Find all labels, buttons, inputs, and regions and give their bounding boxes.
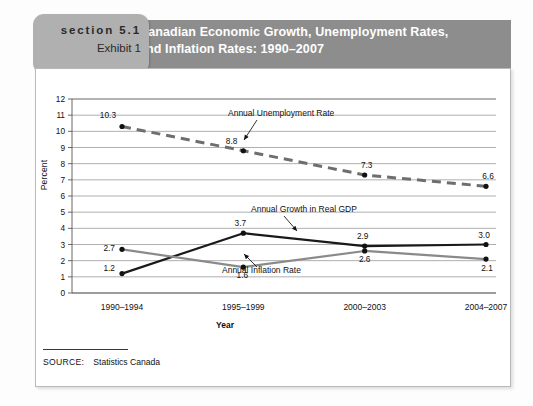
data-point-label: 2.9 [357, 231, 369, 241]
data-point [241, 148, 246, 153]
data-point-label: 8.8 [226, 136, 238, 146]
data-point-label: 3.7 [235, 218, 247, 228]
exhibit-page: Canadian Economic Growth, Unemployment R… [0, 0, 533, 406]
data-point [241, 231, 246, 236]
data-point-label: 3.0 [478, 230, 490, 240]
y-axis-tick-label: 5 [60, 207, 65, 217]
annotation-arrowhead [244, 135, 249, 140]
y-axis-tick-label: 10 [56, 126, 66, 136]
series-annotation-label: Annual Unemployment Rate [228, 108, 335, 118]
data-point [362, 172, 367, 177]
exhibit-label: Exhibit 1 [33, 42, 141, 54]
source-divider [43, 349, 128, 350]
y-axis-tick-label: 1 [60, 272, 65, 282]
data-point [483, 184, 488, 189]
data-point [119, 271, 124, 276]
y-axis-tick-label: 2 [60, 256, 65, 266]
data-point [362, 248, 367, 253]
y-axis-tick-label: 4 [60, 223, 65, 233]
line-chart: 01234567891011121990–19941995–19992000–2… [35, 68, 509, 318]
data-point [483, 242, 488, 247]
series-annotation-label: Annual Growth in Real GDP [251, 204, 357, 214]
data-point [362, 244, 367, 249]
x-axis-tick-label: 2000–2003 [343, 302, 386, 312]
exhibit-title-line2: and Inflation Rates: 1990–2007 [139, 41, 509, 58]
y-axis-tick-label: 3 [60, 240, 65, 250]
y-axis-tick-label: 11 [56, 110, 65, 120]
y-axis-tick-label: 6 [60, 191, 65, 201]
y-axis-tick-label: 0 [60, 288, 65, 298]
exhibit-title: Canadian Economic Growth, Unemployment R… [139, 24, 509, 57]
data-point-label: 2.1 [481, 263, 493, 273]
series-line [122, 249, 486, 267]
y-axis-tick-label: 9 [60, 143, 65, 153]
data-point-label: 6.6 [482, 171, 494, 181]
y-axis-tick-label: 8 [60, 159, 65, 169]
series-line [122, 233, 486, 273]
section-label: section 5.1 [33, 24, 141, 36]
x-axis-title: Year [216, 320, 234, 330]
y-axis-tick-label: 12 [56, 94, 66, 104]
x-axis-tick-label: 1995–1999 [222, 302, 265, 312]
data-point [483, 256, 488, 261]
y-axis-tick-label: 7 [60, 175, 65, 185]
x-axis-tick-label: 2004–2007 [465, 302, 508, 312]
source-value: Statistics Canada [93, 357, 160, 367]
data-point-label: 2.6 [359, 254, 371, 264]
exhibit-title-line1: Canadian Economic Growth, Unemployment R… [139, 24, 509, 41]
data-point-label: 10.3 [100, 110, 117, 120]
source-label: SOURCE: [43, 357, 84, 367]
series-annotation-label: Annual Inflation Rate [222, 265, 301, 275]
x-axis-tick-label: 1990–1994 [101, 302, 144, 312]
data-point-label: 7.3 [361, 160, 373, 170]
series-line [122, 126, 486, 186]
source-note: SOURCE:Statistics Canada [43, 357, 160, 367]
data-point-label: 2.7 [103, 243, 115, 253]
data-point [119, 247, 124, 252]
data-point [119, 124, 124, 129]
data-point-label: 1.2 [103, 263, 115, 273]
